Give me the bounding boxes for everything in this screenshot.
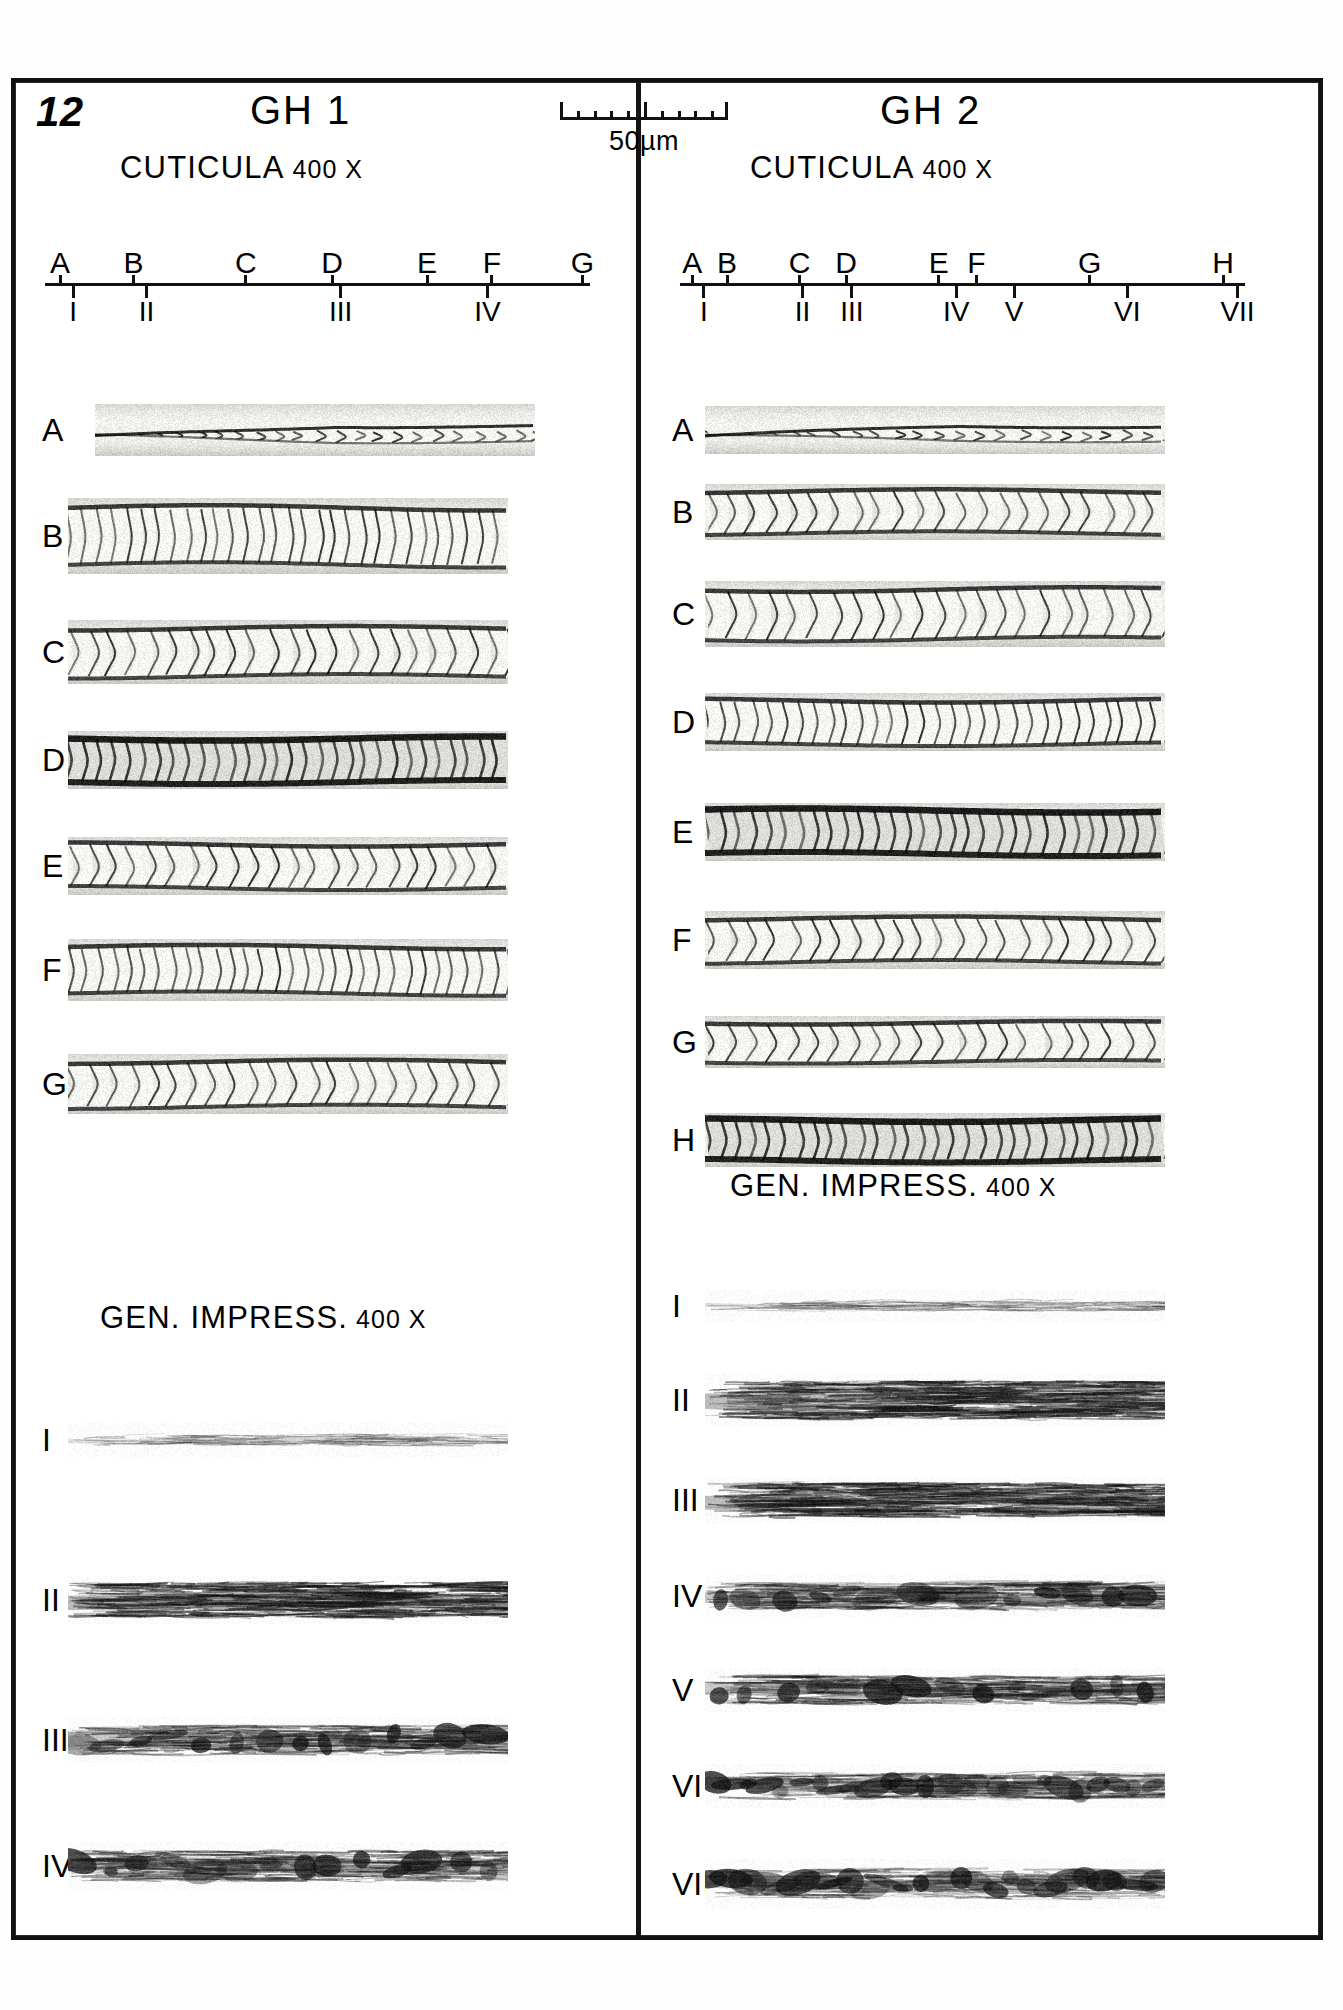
axis-lower-label-II: II: [795, 296, 811, 328]
cuticula-micrograph-gh1-E: [68, 837, 508, 895]
impression-micrograph-gh2-IV: [705, 1575, 1165, 1617]
axis-upper-label-G: G: [1078, 246, 1101, 280]
cuticula-canvas: [68, 498, 508, 574]
impression-micrograph-gh1-III: [68, 1717, 508, 1763]
impression-magnification: 400 X: [348, 1305, 426, 1333]
scale-minor-tick: [610, 111, 613, 120]
scale-minor-tick: [627, 111, 630, 120]
axis-lower-label-V: V: [1005, 296, 1024, 328]
axis-lower-label-VI: VI: [1114, 296, 1140, 328]
scale-minor-tick: [661, 111, 664, 120]
cuticula-canvas: [705, 911, 1165, 969]
cuticula-canvas: [68, 620, 508, 684]
axis-upper-label-C: C: [789, 246, 811, 280]
impression-row-label-gh1-II: II: [42, 1582, 60, 1619]
axis-upper-label-B: B: [717, 246, 737, 280]
cuticula-canvas: [705, 406, 1165, 454]
scale-minor-tick: [711, 111, 714, 120]
impression-micrograph-gh1-II: [68, 1576, 508, 1624]
axis-upper-label-A: A: [50, 246, 70, 280]
cuticula-row-label-gh2-D: D: [672, 704, 695, 741]
impression-row-label-gh2-I: I: [672, 1288, 681, 1325]
cuticula-micrograph-gh1-A: [95, 404, 535, 456]
cuticula-row-label-gh2-G: G: [672, 1024, 697, 1061]
impression-canvas: [705, 1290, 1165, 1322]
cuticula-micrograph-gh2-F: [705, 911, 1165, 969]
cuticula-row-label-gh1-B: B: [42, 518, 63, 555]
impression-canvas: [68, 1576, 508, 1624]
cuticula-heading-text: CUTICULA: [120, 150, 285, 185]
cuticula-row-label-gh2-H: H: [672, 1122, 695, 1159]
impression-canvas: [705, 1477, 1165, 1523]
impression-canvas: [705, 1575, 1165, 1617]
impression-canvas: [705, 1374, 1165, 1426]
figure-frame: [11, 78, 1323, 1940]
axis-upper-label-H: H: [1212, 246, 1234, 280]
cuticula-canvas: [705, 1113, 1165, 1167]
scale-minor-tick: [678, 111, 681, 120]
cuticula-row-label-gh2-A: A: [672, 412, 693, 449]
impression-magnification: 400 X: [978, 1173, 1056, 1201]
cuticula-row-label-gh1-E: E: [42, 848, 63, 885]
impression-micrograph-gh2-V: [705, 1668, 1165, 1712]
cuticula-micrograph-gh2-C: [705, 581, 1165, 647]
cuticula-canvas: [68, 837, 508, 895]
axis-lower-label-VII: VII: [1220, 296, 1254, 328]
cuticula-micrograph-gh2-G: [705, 1016, 1165, 1068]
axis-lower-label-I: I: [69, 296, 77, 328]
cuticula-canvas: [705, 581, 1165, 647]
impression-micrograph-gh2-II: [705, 1374, 1165, 1426]
cuticula-micrograph-gh2-B: [705, 484, 1165, 540]
axis-upper-label-C: C: [235, 246, 257, 280]
cuticula-canvas: [68, 731, 508, 789]
impression-micrograph-gh1-IV: [68, 1842, 508, 1890]
impression-micrograph-gh2-III: [705, 1477, 1165, 1523]
cuticula-row-label-gh1-G: G: [42, 1066, 67, 1103]
impression-heading-text: GEN. IMPRESS.: [730, 1168, 978, 1203]
axis-upper-label-B: B: [124, 246, 144, 280]
axis-upper-label-E: E: [417, 246, 437, 280]
column-divider: [636, 82, 641, 1936]
scale-bar-caption: 50µm: [560, 126, 728, 157]
axis-upper-label-F: F: [967, 246, 985, 280]
axis-lower-label-II: II: [139, 296, 155, 328]
axis-upper-label-D: D: [321, 246, 343, 280]
axis-lower-label-III: III: [329, 296, 352, 328]
impression-row-label-gh2-VI: VI: [672, 1768, 702, 1805]
impression-heading-gh1: GEN. IMPRESS. 400 X: [100, 1300, 426, 1336]
cuticula-row-label-gh1-C: C: [42, 634, 65, 671]
impression-micrograph-gh2-VII: [705, 1859, 1165, 1909]
scale-minor-tick: [694, 111, 697, 120]
impression-canvas: [705, 1764, 1165, 1808]
cuticula-canvas: [68, 939, 508, 1001]
axis-upper-label-E: E: [929, 246, 949, 280]
cuticula-canvas: [705, 803, 1165, 861]
axis-baseline: [680, 283, 1245, 286]
cuticula-canvas: [705, 484, 1165, 540]
column-title-gh1: GH 1: [250, 88, 351, 133]
cuticula-row-label-gh2-F: F: [672, 922, 692, 959]
measurement-axis-gh1: ABCDEFGIIIIIIIV: [45, 250, 590, 328]
frame-inner-edge: [15, 82, 1319, 1936]
impression-heading-gh2: GEN. IMPRESS. 400 X: [730, 1168, 1056, 1204]
cuticula-row-label-gh2-C: C: [672, 596, 695, 633]
axis-lower-label-III: III: [840, 296, 863, 328]
scale-minor-tick: [577, 111, 580, 120]
cuticula-canvas: [68, 1054, 508, 1114]
axis-upper-label-F: F: [483, 246, 501, 280]
plate-number: 12: [36, 88, 84, 136]
axis-lower-label-IV: IV: [474, 296, 500, 328]
cuticula-micrograph-gh2-A: [705, 406, 1165, 454]
impression-row-label-gh1-III: III: [42, 1722, 69, 1759]
cuticula-magnification: 400 X: [915, 155, 993, 183]
cuticula-canvas: [705, 693, 1165, 751]
cuticula-micrograph-gh1-D: [68, 731, 508, 789]
axis-upper-label-A: A: [682, 246, 702, 280]
cuticula-row-label-gh1-A: A: [42, 412, 63, 449]
cuticula-micrograph-gh1-C: [68, 620, 508, 684]
axis-upper-label-D: D: [835, 246, 857, 280]
cuticula-row-label-gh2-E: E: [672, 814, 693, 851]
cuticula-row-label-gh1-D: D: [42, 742, 65, 779]
impression-row-label-gh2-IV: IV: [672, 1578, 702, 1615]
impression-canvas: [705, 1668, 1165, 1712]
